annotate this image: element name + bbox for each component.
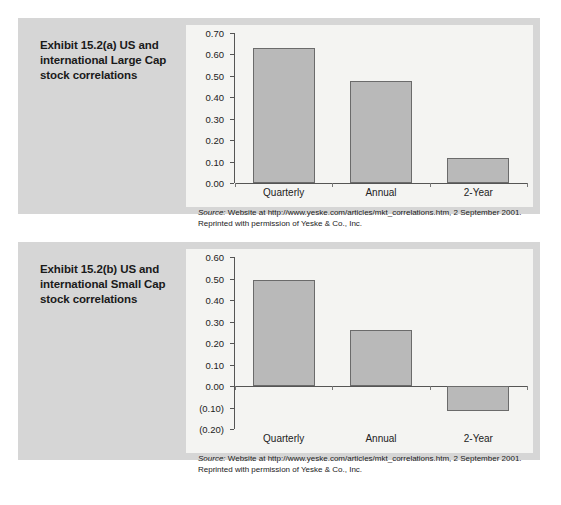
y-tick-label: 0.20	[206, 135, 225, 146]
bars-container-b	[235, 257, 527, 429]
bar-2-year	[447, 386, 509, 411]
y-tick-label: 0.10	[206, 156, 225, 167]
y-tick-mark	[230, 183, 234, 184]
chart-card-b: 0.600.500.400.300.200.100.00(0.10)(0.20)…	[186, 249, 533, 453]
bar-annual	[350, 330, 412, 386]
y-tick-label: 0.50	[206, 273, 225, 284]
y-tick-mark	[230, 279, 234, 280]
bar-quarterly	[253, 48, 315, 183]
y-tick-mark	[230, 322, 234, 323]
bar-annual	[350, 81, 412, 183]
source-label-b: Source:	[198, 454, 226, 463]
exhibit-panel-b: Exhibit 15.2(b) US and international Sma…	[18, 242, 540, 460]
y-tick-mark	[230, 429, 234, 430]
x-axis-label: Annual	[365, 187, 396, 198]
y-tick-label: 0.60	[206, 49, 225, 60]
y-tick-label: 0.00	[206, 381, 225, 392]
bar-2-year	[447, 158, 509, 183]
document-page: Exhibit 15.2(a) US and international Lar…	[0, 0, 561, 505]
y-tick-mark	[230, 300, 234, 301]
y-tick-label: 0.30	[206, 113, 225, 124]
y-tick-mark	[230, 33, 234, 34]
y-tick-mark	[230, 119, 234, 120]
x-tick-mark	[332, 386, 333, 390]
y-tick-label: 0.50	[206, 70, 225, 81]
y-tick-label: 0.20	[206, 338, 225, 349]
x-axis-label: 2-Year	[464, 187, 493, 198]
y-tick-label: 0.60	[206, 252, 225, 263]
y-tick-label: 0.10	[206, 359, 225, 370]
y-tick-label: (0.20)	[199, 424, 224, 435]
y-tick-label: (0.10)	[199, 402, 224, 413]
source-label-a: Source:	[198, 208, 226, 217]
x-axis-label: 2-Year	[464, 433, 493, 444]
x-tick-mark	[430, 386, 431, 390]
bars-container-a	[235, 33, 527, 183]
bar-quarterly	[253, 280, 315, 386]
y-tick-mark	[230, 365, 234, 366]
y-tick-mark	[230, 162, 234, 163]
y-tick-label: 0.40	[206, 295, 225, 306]
y-axis-labels-b: 0.600.500.400.300.200.100.00(0.10)(0.20)	[186, 257, 230, 429]
exhibit-panel-a: Exhibit 15.2(a) US and international Lar…	[18, 18, 540, 214]
source-text-b: Website at http://www.yeske.com/articles…	[226, 454, 522, 463]
y-tick-mark	[230, 257, 234, 258]
y-tick-mark	[230, 76, 234, 77]
x-axis-label: Quarterly	[263, 433, 304, 444]
x-tick-mark	[527, 183, 528, 187]
exhibit-title-b: Exhibit 15.2(b) US and international Sma…	[40, 262, 190, 307]
x-tick-mark	[235, 183, 236, 187]
y-tick-mark	[230, 54, 234, 55]
y-tick-mark	[230, 343, 234, 344]
x-tick-mark	[430, 183, 431, 187]
y-axis-labels-a: 0.700.600.500.400.300.200.100.00	[186, 33, 230, 183]
plot-area-b: 0.600.500.400.300.200.100.00(0.10)(0.20)	[186, 257, 527, 429]
x-axis-label: Annual	[365, 433, 396, 444]
chart-card-a: 0.700.600.500.400.300.200.100.00 Quarter…	[186, 25, 533, 207]
y-tick-mark	[230, 140, 234, 141]
source-permission-a: Reprinted with permission of Yeske & Co.…	[198, 219, 523, 230]
x-tick-mark	[332, 183, 333, 187]
source-permission-b: Reprinted with permission of Yeske & Co.…	[198, 465, 523, 476]
y-tick-label: 0.40	[206, 92, 225, 103]
y-tick-label: 0.00	[206, 178, 225, 189]
y-tick-mark	[230, 97, 234, 98]
zero-baseline	[235, 183, 527, 184]
x-tick-mark	[527, 386, 528, 390]
y-tick-label: 0.70	[206, 28, 225, 39]
source-note-b: Source: Website at http://www.yeske.com/…	[198, 454, 523, 475]
y-tick-label: 0.30	[206, 316, 225, 327]
y-tick-mark	[230, 408, 234, 409]
source-note-a: Source: Website at http://www.yeske.com/…	[198, 208, 523, 229]
plot-area-a: 0.700.600.500.400.300.200.100.00	[186, 33, 527, 183]
x-axis-label: Quarterly	[263, 187, 304, 198]
exhibit-title-a: Exhibit 15.2(a) US and international Lar…	[40, 38, 190, 83]
source-text-a: Website at http://www.yeske.com/articles…	[226, 208, 522, 217]
x-tick-mark	[235, 386, 236, 390]
y-tick-mark	[230, 386, 234, 387]
